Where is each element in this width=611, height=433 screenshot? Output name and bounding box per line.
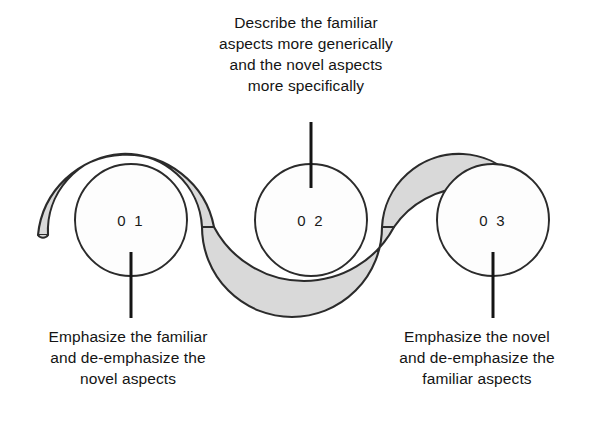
step-number-02: 0 2 [281, 212, 341, 229]
process-diagram: 0 1 0 2 0 3 Describe the familiar aspect… [0, 0, 611, 433]
step-number-03: 0 3 [463, 212, 523, 229]
step-number-01: 0 1 [101, 212, 161, 229]
step-caption-01: Emphasize the familiar and de-emphasize … [10, 326, 246, 389]
ribbon-cap-left [38, 235, 48, 238]
step-caption-03: Emphasize the novel and de-emphasize the… [352, 326, 602, 389]
step-caption-02: Describe the familiar aspects more gener… [168, 12, 444, 96]
